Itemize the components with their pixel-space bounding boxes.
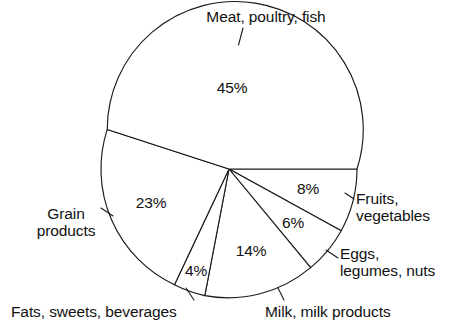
slice-label-fruits-vegetables-line2: vegetables <box>356 207 430 224</box>
slice-label-grain-products-line1: Grain <box>47 205 84 222</box>
slice-value-meat-poultry-fish: 45% <box>217 79 248 96</box>
slice-label-fruits-vegetables-line1: Fruits, <box>356 190 398 207</box>
slice-label-eggs-legumes-nuts-line1: Eggs, <box>340 245 379 262</box>
slice-label-meat-poultry-fish: Meat, poultry, fish <box>206 8 325 25</box>
slice-label-milk-milk-products: Milk, milk products <box>265 303 391 320</box>
slice-label-fats-sweets-beverages: Fats, sweets, beverages <box>11 303 177 320</box>
slice-value-eggs-legumes-nuts: 6% <box>282 214 304 231</box>
pie-chart: Meat, poultry, fish Grain products Fats,… <box>0 0 455 336</box>
leader-line-milk-milk-products <box>278 288 284 300</box>
leader-line-eggs-legumes-nuts <box>326 250 338 258</box>
pie-chart-graphic <box>0 0 455 336</box>
slice-value-grain-products: 23% <box>136 194 167 211</box>
slice-value-fruits-vegetables: 8% <box>297 180 319 197</box>
slice-value-milk-milk-products: 14% <box>236 242 267 259</box>
slice-label-eggs-legumes-nuts-line2: legumes, nuts <box>340 262 435 279</box>
slice-label-grain-products-line2: products <box>37 222 96 239</box>
slice-value-fats-sweets-beverages: 4% <box>185 262 207 279</box>
